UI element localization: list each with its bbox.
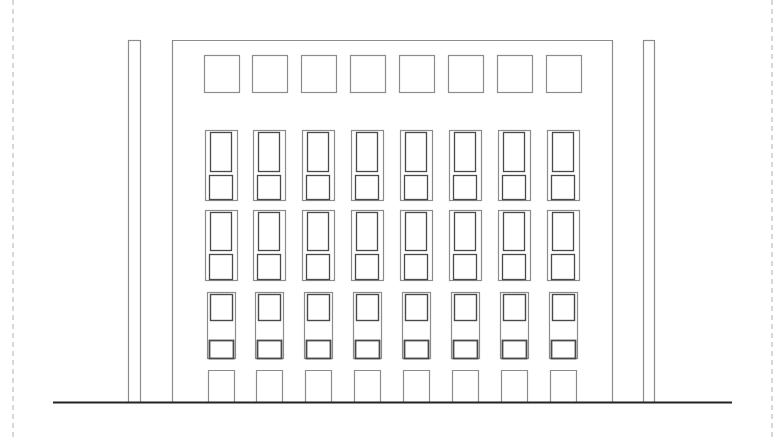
top-window-row (205, 56, 582, 93)
window-upper-pane (308, 133, 329, 172)
window-upper-pane (406, 213, 427, 251)
window-lower-pane (210, 176, 233, 200)
window-lower-pane (454, 176, 477, 200)
top-window (351, 56, 386, 93)
window-lower-pane (356, 176, 379, 200)
top-window (449, 56, 484, 93)
top-window (253, 56, 288, 93)
window-upper-pane (406, 295, 428, 321)
window-lower-pane (503, 255, 526, 280)
window-frame (501, 293, 529, 359)
window-upper-pane (211, 133, 232, 172)
ground-opening (551, 371, 577, 403)
window-lower-pane (258, 341, 282, 359)
window-upper-pane (259, 133, 280, 172)
window-lower-pane (210, 341, 234, 359)
window-upper-pane (259, 213, 280, 251)
ground-opening (502, 371, 528, 403)
window-frame (452, 293, 480, 359)
window-upper-pane (553, 213, 574, 251)
window-upper-pane (308, 213, 329, 251)
window-lower-pane (503, 341, 527, 359)
window-upper-pane (455, 295, 477, 321)
window-upper-pane (211, 295, 233, 321)
window-lower-pane (503, 176, 526, 200)
window-frame (403, 293, 431, 359)
ground-opening (355, 371, 381, 403)
window-frame (305, 293, 333, 359)
window-lower-pane (258, 255, 281, 280)
tall-window-rows (206, 131, 580, 281)
window-upper-pane (504, 213, 525, 251)
window-frame (354, 293, 382, 359)
window-lower-pane (356, 341, 380, 359)
window-upper-pane (259, 295, 281, 321)
window-lower-pane (552, 341, 576, 359)
ground-opening (257, 371, 283, 403)
window-lower-pane (307, 255, 330, 280)
window-lower-pane (258, 176, 281, 200)
sheet-border (13, 0, 772, 441)
ground-opening (209, 371, 235, 403)
window-lower-pane (356, 255, 379, 280)
window-upper-pane (357, 133, 378, 172)
window-lower-pane (552, 255, 575, 280)
ground-openings-row (209, 371, 577, 403)
top-window (498, 56, 533, 93)
window-upper-pane (357, 213, 378, 251)
short-window-row (208, 293, 578, 359)
window-lower-pane (454, 255, 477, 280)
window-upper-pane (211, 213, 232, 251)
top-window (205, 56, 240, 93)
window-frame (256, 293, 284, 359)
window-frame (550, 293, 578, 359)
window-upper-pane (357, 295, 379, 321)
window-lower-pane (552, 176, 575, 200)
window-upper-pane (504, 295, 526, 321)
window-lower-pane (454, 341, 478, 359)
window-upper-pane (455, 213, 476, 251)
window-upper-pane (455, 133, 476, 172)
window-lower-pane (307, 341, 331, 359)
window-lower-pane (405, 176, 428, 200)
window-lower-pane (307, 176, 330, 200)
ground-opening (306, 371, 332, 403)
window-lower-pane (210, 255, 233, 280)
window-lower-pane (405, 341, 429, 359)
window-frame (208, 293, 236, 359)
window-upper-pane (504, 133, 525, 172)
window-upper-pane (308, 295, 330, 321)
window-lower-pane (405, 255, 428, 280)
window-upper-pane (553, 295, 575, 321)
top-window (547, 56, 582, 93)
building-elevation-drawing (0, 0, 779, 441)
top-window (302, 56, 337, 93)
ground-opening (404, 371, 430, 403)
window-upper-pane (553, 133, 574, 172)
window-upper-pane (406, 133, 427, 172)
ground-opening (453, 371, 479, 403)
top-window (400, 56, 435, 93)
